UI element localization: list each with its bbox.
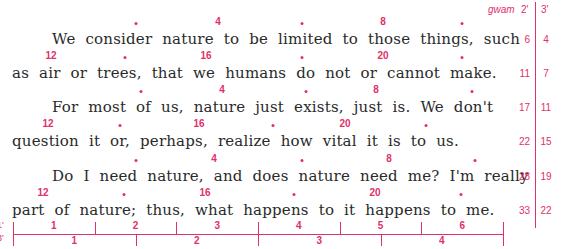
scale-top-segment-label: 3 xyxy=(214,220,220,231)
word-count-marker: 16 xyxy=(199,187,210,198)
scale-top-tick xyxy=(95,222,96,234)
scale-bottom-segment-label: 3 xyxy=(316,235,322,246)
gwam-2min-count: 17 xyxy=(510,102,530,113)
word-count-dot xyxy=(124,56,127,59)
gwam-3min-count: 4 xyxy=(536,34,556,45)
scale-top-tick xyxy=(340,222,341,234)
scale-bottom-segment-label: 4 xyxy=(439,235,445,246)
word-count-dot xyxy=(140,90,143,93)
word-count-marker: 4 xyxy=(219,84,225,95)
gwam-2min-header: 2' xyxy=(521,4,528,15)
gwam-3min-count: 11 xyxy=(536,102,556,113)
scale-top-segment-label: 6 xyxy=(459,220,465,231)
word-count-dot xyxy=(461,22,464,25)
passage-line: as air or trees, that we humans do not o… xyxy=(12,64,497,82)
gwam-3min-count: 19 xyxy=(536,171,556,182)
passage-line: Do I need nature, and does nature need m… xyxy=(52,167,529,185)
word-count-marker: 20 xyxy=(339,118,350,129)
word-count-marker: 20 xyxy=(377,50,388,61)
word-count-dot xyxy=(301,56,304,59)
word-count-dot xyxy=(293,193,296,196)
scale-bottom-segment-label: 2 xyxy=(194,235,200,246)
word-count-marker: 8 xyxy=(380,16,386,27)
scale-start-tick xyxy=(13,222,14,246)
word-count-dot xyxy=(301,159,304,162)
passage-line: We consider nature to be limited to thos… xyxy=(52,30,520,48)
gwam-label: gwam xyxy=(488,4,515,15)
word-count-dot xyxy=(119,124,122,127)
word-count-dot xyxy=(474,159,477,162)
passage-line: For most of us, nature just exists, just… xyxy=(52,98,493,116)
scale-bottom-label: 3' xyxy=(0,233,4,243)
gwam-2min-count: 22 xyxy=(510,136,530,147)
word-count-dot xyxy=(135,159,138,162)
word-count-dot xyxy=(461,56,464,59)
gwam-2min-count: 6 xyxy=(510,34,530,45)
gwam-2min-count: 11 xyxy=(510,68,530,79)
scale-top-segment-label: 5 xyxy=(378,220,384,231)
word-count-marker: 4 xyxy=(215,16,221,27)
word-count-dot xyxy=(123,193,126,196)
scale-bottom-tick xyxy=(381,234,382,246)
gwam-3min-count: 22 xyxy=(536,205,556,216)
word-count-marker: 4 xyxy=(211,153,217,164)
gwam-3min-count: 7 xyxy=(536,68,556,79)
word-count-dot xyxy=(135,22,138,25)
word-count-dot xyxy=(460,193,463,196)
word-count-dot xyxy=(425,124,428,127)
word-count-marker: 8 xyxy=(386,153,392,164)
scale-bottom-segment-label: 1 xyxy=(71,235,77,246)
scale-top-segment-label: 2 xyxy=(133,220,139,231)
gwam-3min-header: 3' xyxy=(541,4,548,15)
scale-top-segment-label: 1 xyxy=(51,220,57,231)
scale-top-label: 1' xyxy=(0,220,4,230)
scale-end-tick xyxy=(503,222,504,246)
gwam-3min-count: 15 xyxy=(536,136,556,147)
passage-line: part of nature; thus, what happens to it… xyxy=(12,201,495,219)
gwam-2min-count: 28 xyxy=(510,171,530,182)
scale-top-tick xyxy=(258,222,259,234)
passage-line: question it or, perhaps, realize how vit… xyxy=(12,132,459,150)
gwam-2min-count: 33 xyxy=(510,205,530,216)
word-count-marker: 12 xyxy=(45,50,56,61)
word-count-dot xyxy=(471,90,474,93)
word-count-marker: 12 xyxy=(37,187,48,198)
word-count-dot xyxy=(305,90,308,93)
scale-bottom-tick xyxy=(136,234,137,246)
word-count-dot xyxy=(272,124,275,127)
scale-top-segment-label: 4 xyxy=(296,220,302,231)
word-count-marker: 20 xyxy=(369,187,380,198)
word-count-marker: 8 xyxy=(373,84,379,95)
word-count-marker: 12 xyxy=(42,118,53,129)
word-count-dot xyxy=(301,22,304,25)
scale-top-tick xyxy=(176,222,177,234)
word-count-marker: 16 xyxy=(193,118,204,129)
word-count-marker: 16 xyxy=(200,50,211,61)
scale-top-tick xyxy=(421,222,422,234)
scale-bottom-tick xyxy=(258,234,259,246)
